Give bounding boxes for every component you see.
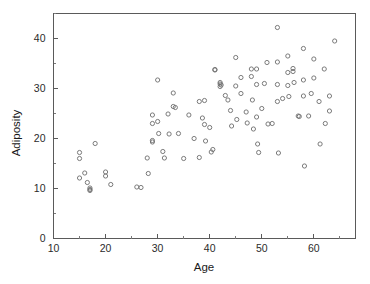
data-point [286,70,290,74]
data-point [192,136,196,140]
data-point [301,78,305,82]
x-tick-label: 60 [308,242,320,254]
x-tick-label: 10 [48,242,60,254]
data-point [262,81,266,85]
data-point [250,98,254,102]
data-point [202,98,206,102]
data-point [150,121,154,125]
data-point [322,67,326,71]
data-point [327,109,331,113]
data-point [77,156,81,160]
data-point [182,156,186,160]
data-point [234,84,238,88]
data-point [276,151,280,155]
data-point [162,156,166,160]
data-point [156,78,160,82]
data-point [187,113,191,117]
data-point [93,141,97,145]
data-point [292,80,296,84]
data-point [286,54,290,58]
data-point [244,110,248,114]
data-point [254,67,258,71]
data-point [234,55,238,59]
data-point [275,82,279,86]
data-point [257,150,261,154]
data-point [197,155,201,159]
data-point [135,185,139,189]
data-point [266,122,270,126]
data-point [291,69,295,73]
data-point [327,94,331,98]
data-point [146,171,150,175]
x-tick-label: 40 [204,242,216,254]
data-point [226,98,230,102]
data-point [275,60,279,64]
data-point [260,106,264,110]
data-point [150,113,154,117]
tick-labels-group: 102030405060010203040 [34,32,320,253]
x-tick-label: 30 [152,242,164,254]
data-point [317,99,321,103]
data-point [249,67,253,71]
data-point [83,171,87,175]
x-axis-title: Age [194,261,214,273]
data-point [202,122,206,126]
data-point [249,74,253,78]
data-point [301,46,305,50]
data-point [203,139,207,143]
data-point [239,91,243,95]
scatter-plot-figure: 102030405060010203040 Age Adiposity [0,0,370,284]
data-point [109,182,113,186]
data-point [156,119,160,123]
data-point [333,39,337,43]
data-point [161,149,165,153]
y-tick-label: 10 [34,182,46,194]
ticks-group [54,14,340,239]
data-point [256,142,260,146]
y-tick-label: 40 [34,32,46,44]
y-tick-label: 30 [34,82,46,94]
plot-canvas: 102030405060010203040 Age Adiposity [0,0,370,284]
axes-group [54,14,356,239]
x-tick-label: 20 [100,242,112,254]
data-point [197,99,201,103]
data-point [239,75,243,79]
y-axis-title: Adiposity [10,109,22,156]
data-point [265,60,269,64]
data-point [275,99,279,103]
data-point [235,117,239,121]
data-point [281,96,285,100]
data-point [77,176,81,180]
data-point [208,125,212,129]
data-point [157,131,161,135]
data-point [318,142,322,146]
data-point [286,83,290,87]
data-point [254,82,258,86]
data-point [287,94,291,98]
data-point [307,114,311,118]
data-point [302,164,306,168]
data-point [171,91,175,95]
data-point [176,131,180,135]
data-point [77,150,81,154]
y-tick-label: 20 [34,132,46,144]
data-point [85,180,89,184]
data-point [251,127,255,131]
data-point [229,124,233,128]
data-point [166,112,170,116]
x-tick-label: 50 [256,242,268,254]
data-points-group [77,25,336,192]
data-point [145,156,149,160]
data-point [270,121,274,125]
plot-frame [54,14,356,239]
data-point [323,121,327,125]
data-point [167,132,171,136]
data-point [309,91,313,95]
data-point [228,108,232,112]
data-point [245,121,249,125]
data-point [200,116,204,120]
data-point [223,93,227,97]
data-point [254,115,258,119]
data-point [275,25,279,29]
data-point [312,57,316,61]
